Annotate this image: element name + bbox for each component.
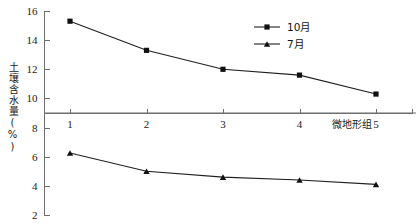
y-tick-label: 16 — [27, 5, 39, 17]
x-tick-label: 1 — [67, 118, 73, 130]
legend-item-10月: 10月 — [254, 21, 310, 33]
y-tick-label: 6 — [32, 151, 38, 163]
series-group — [67, 19, 379, 188]
legend-item-7月: 7月 — [254, 38, 304, 50]
x-tick-label: 2 — [144, 118, 150, 130]
series-7月 — [67, 150, 379, 187]
x-axis-title: 微地形组 — [332, 118, 372, 130]
series-10月 — [67, 19, 378, 97]
legend-label: 7月 — [287, 38, 304, 50]
y-tick-labels: 246810121416 — [27, 5, 39, 221]
y-tick-label: 12 — [27, 63, 38, 75]
legend-label: 10月 — [287, 21, 310, 33]
series-line — [70, 21, 376, 94]
x-tick-label: 5 — [373, 118, 379, 130]
data-point-marker — [220, 67, 225, 72]
y-axis-title: 土壤含水量(%) — [2, 62, 18, 153]
data-point-marker — [144, 48, 149, 53]
y-tick-label: 10 — [27, 92, 39, 104]
y-tick-label: 8 — [32, 122, 38, 134]
y-tick-label: 2 — [32, 209, 38, 221]
data-point-marker — [297, 73, 302, 78]
chart-legend: 10月7月 — [254, 21, 310, 50]
line-chart-canvas: 246810121416 12345 微地形组 10月7月 — [0, 0, 416, 224]
data-point-marker — [264, 24, 269, 29]
x-tick-label: 3 — [220, 118, 226, 130]
data-point-marker — [67, 19, 72, 24]
y-tick-label: 14 — [27, 34, 39, 46]
data-point-marker — [373, 91, 378, 96]
chart-figure: 246810121416 12345 微地形组 10月7月 土壤含水量(%) — [0, 0, 416, 224]
y-tick-label: 4 — [32, 180, 38, 192]
x-tick-label: 4 — [297, 118, 303, 130]
